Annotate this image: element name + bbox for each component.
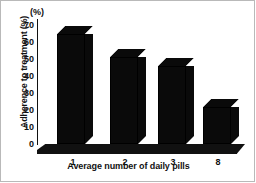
x-axis-floor [37, 144, 245, 154]
y-tick-label: 0 [29, 139, 34, 149]
bar-category-3 [158, 66, 186, 144]
bar-top-face [158, 58, 194, 66]
y-tick-label: 70 [24, 20, 34, 30]
y-axis-unit-label: (%) [30, 7, 44, 17]
y-tick-label: 10 [24, 122, 34, 132]
bar-category-8 [203, 107, 231, 144]
bar-side-face [85, 34, 93, 144]
bar-front-face [158, 66, 186, 144]
bar-front-face [57, 34, 85, 144]
x-axis-title: Average number of daily pills [1, 161, 256, 171]
floor-front-face [37, 150, 237, 154]
y-tick-label: 40 [24, 71, 34, 81]
bar-top-face [203, 99, 239, 107]
y-tick-label: 60 [24, 37, 34, 47]
chart-figure: Adherence to treatment (%) (%) 70 60 50 … [0, 0, 255, 182]
bar-side-face [138, 57, 146, 144]
bar-side-face [186, 66, 194, 144]
y-tick-label: 20 [24, 105, 34, 115]
bar-side-face [231, 107, 239, 144]
bar-category-2 [110, 57, 138, 144]
bar-front-face [203, 107, 231, 144]
bar-category-1 [57, 34, 85, 144]
plot-area: 70 60 50 40 30 20 10 0 [37, 19, 245, 147]
y-tick-label: 30 [24, 88, 34, 98]
bar-front-face [110, 57, 138, 144]
bar-top-face [57, 26, 93, 34]
y-tick-label: 50 [24, 54, 34, 64]
bar-top-face [110, 49, 146, 57]
y-axis-line [37, 19, 38, 145]
